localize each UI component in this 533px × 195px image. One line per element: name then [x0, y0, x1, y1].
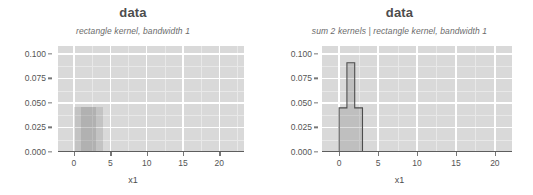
y-tick-label: 0.100 — [291, 49, 312, 59]
y-tick-label: 0.025 — [25, 122, 46, 132]
y-axis-right: 0.0000.0250.0500.0750.100 — [266, 46, 318, 152]
panel-left-subtitle: rectangle kernel, bandwidth 1 — [0, 26, 266, 36]
y-tick-label: 0.000 — [291, 147, 312, 157]
panel-left: data rectangle kernel, bandwidth 1 0.000… — [0, 0, 266, 195]
y-tick-label: 0.075 — [291, 73, 312, 83]
gridline-major-vertical — [146, 46, 147, 152]
x-tick-label: 0 — [337, 158, 342, 168]
y-tick-mark — [314, 53, 318, 54]
x-tick-mark — [456, 152, 457, 156]
x-tick-label: 20 — [215, 158, 224, 168]
plot-area-right — [322, 46, 512, 152]
x-axis-title-left: x1 — [0, 175, 266, 185]
x-tick-label: 5 — [108, 158, 113, 168]
gridline-minor-vertical — [201, 46, 202, 152]
gridline-minor-horizontal — [58, 66, 244, 67]
density-step-outline — [322, 46, 512, 152]
kernel-rectangle — [89, 107, 104, 152]
x-tick-label: 15 — [178, 158, 187, 168]
y-tick-mark — [48, 127, 52, 128]
x-tick-mark — [495, 152, 496, 156]
gridline-major-horizontal — [58, 53, 244, 54]
y-tick-label: 0.050 — [25, 98, 46, 108]
gridline-minor-vertical — [237, 46, 238, 152]
y-tick-label: 0.000 — [25, 147, 46, 157]
gridline-minor-horizontal — [58, 91, 244, 92]
gridline-major-vertical — [110, 46, 111, 152]
gridline-major-vertical — [182, 46, 183, 152]
x-tick-label: 10 — [142, 158, 151, 168]
y-tick-mark — [314, 151, 318, 152]
x-tick-mark — [339, 152, 340, 156]
y-tick-mark — [48, 102, 52, 103]
x-tick-mark — [110, 152, 111, 156]
x-tick-label: 10 — [412, 158, 421, 168]
y-tick-mark — [48, 53, 52, 54]
gridline-major-horizontal — [58, 78, 244, 79]
gridline-minor-vertical — [128, 46, 129, 152]
y-tick-label: 0.100 — [25, 49, 46, 59]
gridline-minor-vertical — [165, 46, 166, 152]
y-tick-label: 0.050 — [291, 98, 312, 108]
panel-left-title: data — [0, 5, 266, 20]
y-tick-mark — [314, 127, 318, 128]
x-tick-label: 15 — [451, 158, 460, 168]
y-tick-mark — [314, 102, 318, 103]
x-tick-mark — [183, 152, 184, 156]
y-tick-mark — [314, 78, 318, 79]
x-tick-mark — [378, 152, 379, 156]
y-tick-label: 0.075 — [25, 73, 46, 83]
panel-right-title: data — [266, 5, 533, 20]
x-tick-mark — [147, 152, 148, 156]
y-axis-left: 0.0000.0250.0500.0750.100 — [0, 46, 52, 152]
x-tick-mark — [219, 152, 220, 156]
x-tick-label: 20 — [490, 158, 499, 168]
gridline-major-horizontal — [58, 102, 244, 103]
plot-area-left — [58, 46, 244, 152]
panel-right-subtitle: sum 2 kernels | rectangle kernel, bandwi… — [266, 26, 533, 36]
x-tick-label: 5 — [376, 158, 381, 168]
y-tick-mark — [48, 151, 52, 152]
y-tick-mark — [48, 78, 52, 79]
x-axis-title-right: x1 — [266, 175, 533, 185]
x-tick-label: 0 — [72, 158, 77, 168]
figure-root: data rectangle kernel, bandwidth 1 0.000… — [0, 0, 533, 195]
x-tick-mark — [74, 152, 75, 156]
y-tick-label: 0.025 — [291, 122, 312, 132]
panel-right: data sum 2 kernels | rectangle kernel, b… — [266, 0, 533, 195]
x-tick-mark — [417, 152, 418, 156]
gridline-major-vertical — [219, 46, 220, 152]
